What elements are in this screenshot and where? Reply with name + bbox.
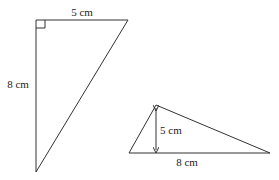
right-triangle-side-label: 8 cm	[7, 78, 29, 90]
obtuse-triangle-base-label: 8 cm	[176, 156, 198, 168]
right-triangle-top-label: 5 cm	[71, 6, 93, 18]
obtuse-triangle-shape	[129, 105, 270, 153]
right-angle-marker	[36, 20, 45, 28]
right-triangle: 5 cm 8 cm	[7, 6, 128, 172]
obtuse-triangle-height-label: 5 cm	[160, 124, 182, 136]
diagram: 5 cm 8 cm 5 cm 8 cm	[0, 0, 279, 180]
obtuse-triangle: 5 cm 8 cm	[129, 105, 270, 168]
right-triangle-shape	[36, 20, 128, 172]
